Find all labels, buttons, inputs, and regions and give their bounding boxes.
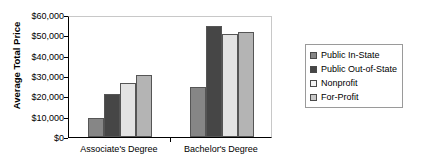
- legend-item[interactable]: Public Out-of-State: [310, 62, 397, 76]
- bars-container: [69, 17, 271, 137]
- bar: [120, 83, 136, 137]
- legend-swatch-icon: [310, 52, 317, 59]
- legend-item-label: For-Profit: [321, 93, 359, 102]
- bar: [190, 87, 206, 137]
- y-axis-tick-label: $30,000: [31, 73, 64, 82]
- x-axis-group-separator: [170, 138, 171, 142]
- legend-item[interactable]: Nonprofit: [310, 76, 397, 90]
- legend-swatch-icon: [310, 80, 317, 87]
- plot-area: [68, 16, 272, 138]
- bar: [222, 34, 238, 137]
- legend-item-label: Nonprofit: [321, 79, 358, 88]
- y-axis-tick-mark: [64, 97, 68, 98]
- y-axis-tick-labels: $0$10,000$20,000$30,000$40,000$50,000$60…: [16, 0, 64, 168]
- x-axis-tick-label: Bachelor's Degree: [161, 144, 281, 154]
- y-axis-tick-label: $20,000: [31, 93, 64, 102]
- y-axis-tick-mark: [64, 36, 68, 37]
- y-axis-tick-mark: [64, 118, 68, 119]
- chart-legend: Public In-StatePublic Out-of-StateNonpro…: [305, 44, 403, 108]
- bar: [104, 94, 120, 137]
- bar-chart: Average Total Price $0$10,000$20,000$30,…: [0, 0, 427, 168]
- legend-item[interactable]: Public In-State: [310, 48, 397, 62]
- legend-swatch-icon: [310, 66, 317, 73]
- y-axis-tick-label: $40,000: [31, 52, 64, 61]
- bar: [88, 118, 104, 137]
- bar: [206, 26, 222, 137]
- y-axis-tick-label: $50,000: [31, 32, 64, 41]
- y-axis-tick-mark: [64, 138, 68, 139]
- y-axis-tick-label: $0: [54, 134, 64, 143]
- legend-swatch-icon: [310, 94, 317, 101]
- legend-item-label: Public Out-of-State: [321, 65, 397, 74]
- y-axis-tick-mark: [64, 77, 68, 78]
- y-axis-tick-label: $10,000: [31, 113, 64, 122]
- legend-item-label: Public In-State: [321, 51, 380, 60]
- legend-item[interactable]: For-Profit: [310, 90, 397, 104]
- y-axis-tick-label: $60,000: [31, 12, 64, 21]
- y-axis-tick-mark: [64, 57, 68, 58]
- bar: [238, 32, 254, 137]
- bar: [136, 75, 152, 137]
- y-axis-tick-mark: [64, 16, 68, 17]
